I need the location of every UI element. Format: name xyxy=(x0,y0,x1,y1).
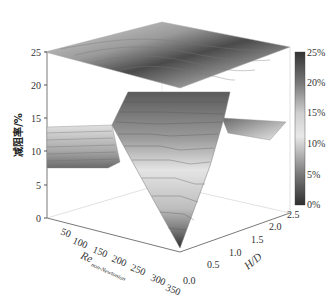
x-axis: 50 100 150 200 250 300 350 xyxy=(59,226,182,298)
x-tick: 200 xyxy=(110,253,128,269)
x-tick: 300 xyxy=(149,272,167,288)
x-tick: 50 xyxy=(59,226,72,240)
y-tick: 0.5 xyxy=(207,259,220,270)
y-tick: 2.0 xyxy=(269,221,282,232)
surface-left xyxy=(47,125,120,168)
y-axis-label: H/D xyxy=(241,250,264,272)
z-axis: 0 5 10 15 20 25 xyxy=(31,47,47,224)
surface-main xyxy=(112,92,230,248)
svg-text:15%: 15% xyxy=(307,107,325,118)
x-tick: 150 xyxy=(91,244,109,260)
svg-text:25%: 25% xyxy=(307,47,325,58)
y-tick: 0.0 xyxy=(183,275,196,286)
z-axis-label: 减阻率/% xyxy=(12,113,24,157)
z-tick: 20 xyxy=(31,80,41,91)
surface-right xyxy=(222,118,286,140)
y-axis: 0.0 0.5 1.0 1.5 2.0 2.5 xyxy=(183,209,300,286)
surface-chart: 0 5 10 15 20 25 减阻率/% 50 100 150 200 250… xyxy=(0,0,336,305)
y-tick: 2.5 xyxy=(287,209,300,220)
colorbar xyxy=(295,52,305,205)
colorbar-ticks: 0% 5% 10% 15% 20% 25% xyxy=(307,47,325,210)
z-tick: 25 xyxy=(31,47,41,58)
z-tick: 15 xyxy=(31,113,41,124)
top-projection xyxy=(45,22,290,88)
y-tick: 1.5 xyxy=(251,234,264,245)
z-tick: 5 xyxy=(36,180,41,191)
z-tick: 10 xyxy=(31,146,41,157)
y-tick: 1.0 xyxy=(229,247,242,258)
svg-text:0%: 0% xyxy=(307,199,320,210)
x-tick: 350 xyxy=(164,282,182,298)
svg-text:5%: 5% xyxy=(307,169,320,180)
svg-text:20%: 20% xyxy=(307,77,325,88)
z-tick: 0 xyxy=(36,213,41,224)
svg-text:10%: 10% xyxy=(307,138,325,149)
x-tick: 250 xyxy=(129,262,147,278)
x-tick: 100 xyxy=(71,235,89,251)
